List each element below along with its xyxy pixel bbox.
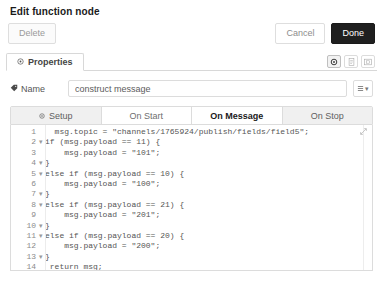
code-line-text: msg.payload = "200"; bbox=[45, 241, 372, 251]
gutter-divider bbox=[45, 125, 46, 270]
line-number: 14 bbox=[11, 262, 37, 271]
tab-properties[interactable]: Properties bbox=[6, 53, 84, 71]
line-number: 1 bbox=[11, 127, 37, 137]
code-line: 9 msg.payload = "201"; bbox=[11, 210, 372, 220]
code-line-text: } bbox=[45, 158, 372, 168]
code-line: 14 return msg; bbox=[11, 262, 372, 271]
code-line-text: if (msg.payload == 11) { bbox=[45, 137, 372, 147]
code-line-text: msg.payload = "100"; bbox=[45, 179, 372, 189]
delete-button[interactable]: Delete bbox=[8, 23, 56, 44]
code-line: 13▾} bbox=[11, 252, 372, 262]
properties-tool-group bbox=[327, 55, 375, 70]
tab-on-start-label: On Start bbox=[129, 111, 163, 121]
name-label: Name bbox=[10, 84, 62, 94]
code-line-text: } bbox=[45, 221, 372, 231]
code-line-text: else if (msg.payload == 20) { bbox=[45, 231, 372, 241]
line-number: 5 bbox=[11, 169, 37, 179]
tab-properties-label: Properties bbox=[28, 57, 73, 67]
fold-marker[interactable]: ▾ bbox=[37, 252, 45, 262]
tab-on-message[interactable]: On Message bbox=[192, 107, 283, 124]
code-line-text: msg.payload = "101"; bbox=[45, 148, 372, 158]
fold-marker[interactable]: ▾ bbox=[37, 231, 45, 241]
line-number: 12 bbox=[11, 241, 37, 251]
description-icon-button[interactable] bbox=[344, 55, 358, 68]
fold-marker[interactable]: ▾ bbox=[37, 158, 45, 168]
dialog-header: Edit function node bbox=[0, 0, 383, 19]
fold-marker[interactable]: ▾ bbox=[37, 189, 45, 199]
code-content[interactable]: 1 msg.topic = "channels/1765924/publish/… bbox=[11, 125, 372, 271]
cancel-button[interactable]: Cancel bbox=[275, 23, 325, 44]
code-line-text: else if (msg.payload == 21) { bbox=[45, 200, 372, 210]
code-line: 4▾} bbox=[11, 158, 372, 168]
fold-marker[interactable]: ▾ bbox=[37, 200, 45, 210]
code-line: 2▾if (msg.payload == 11) { bbox=[11, 137, 372, 147]
code-line: 5▾else if (msg.payload == 10) { bbox=[11, 169, 372, 179]
tab-on-stop-label: On Stop bbox=[311, 111, 344, 121]
code-line-text: msg.payload = "201"; bbox=[45, 210, 372, 220]
code-line: 1 msg.topic = "channels/1765924/publish/… bbox=[11, 127, 372, 137]
tab-on-message-label: On Message bbox=[210, 111, 263, 121]
dialog-action-group: Cancel Done bbox=[275, 23, 375, 44]
editor-scrollbar[interactable] bbox=[363, 125, 372, 270]
gear-icon-button[interactable] bbox=[327, 55, 341, 68]
tab-on-start[interactable]: On Start bbox=[102, 107, 193, 124]
code-line-text: } bbox=[45, 252, 372, 262]
name-history-button[interactable]: ▾ bbox=[353, 80, 373, 97]
tab-setup-label: Setup bbox=[49, 111, 73, 121]
appearance-icon-button[interactable] bbox=[361, 55, 375, 68]
code-tabbar: Setup On Start On Message On Stop bbox=[10, 106, 373, 125]
code-line: 11▾else if (msg.payload == 20) { bbox=[11, 231, 372, 241]
properties-tabbar: Properties bbox=[6, 51, 377, 71]
code-line-text: return msg; bbox=[45, 262, 372, 271]
line-number: 4 bbox=[11, 158, 37, 168]
line-number: 2 bbox=[11, 137, 37, 147]
page-title: Edit function node bbox=[10, 6, 373, 17]
chevron-down-icon: ▾ bbox=[365, 85, 369, 93]
fold-marker[interactable]: ▾ bbox=[37, 221, 45, 231]
list-icon bbox=[357, 85, 364, 93]
code-line: 10▾} bbox=[11, 221, 372, 231]
fold-marker[interactable]: ▾ bbox=[37, 169, 45, 179]
code-line: 8▾else if (msg.payload == 21) { bbox=[11, 200, 372, 210]
code-editor[interactable]: 1 msg.topic = "channels/1765924/publish/… bbox=[10, 125, 373, 271]
name-input[interactable] bbox=[68, 80, 347, 97]
done-button[interactable]: Done bbox=[331, 23, 375, 44]
line-number: 3 bbox=[11, 148, 37, 158]
code-line: 7▾} bbox=[11, 189, 372, 199]
fold-marker[interactable]: ▾ bbox=[37, 137, 45, 147]
code-line-text: } bbox=[45, 189, 372, 199]
line-number: 8 bbox=[11, 200, 37, 210]
line-number: 13 bbox=[11, 252, 37, 262]
code-line-text: msg.topic = "channels/1765924/publish/fi… bbox=[45, 127, 372, 137]
line-number: 7 bbox=[11, 189, 37, 199]
gear-icon bbox=[39, 111, 45, 121]
line-number: 6 bbox=[11, 179, 37, 189]
code-line: 6 msg.payload = "100"; bbox=[11, 179, 372, 189]
tag-icon bbox=[10, 84, 18, 94]
gear-icon bbox=[17, 57, 24, 67]
dialog-button-bar: Delete Cancel Done bbox=[0, 19, 383, 47]
name-label-text: Name bbox=[21, 84, 45, 94]
line-number: 10 bbox=[11, 221, 37, 231]
tab-setup[interactable]: Setup bbox=[11, 107, 102, 124]
name-row: Name ▾ bbox=[10, 80, 373, 97]
line-number: 9 bbox=[11, 210, 37, 220]
tab-on-stop[interactable]: On Stop bbox=[283, 107, 373, 124]
code-line-text: else if (msg.payload == 10) { bbox=[45, 169, 372, 179]
expand-icon[interactable] bbox=[360, 128, 367, 135]
line-number: 11 bbox=[11, 231, 37, 241]
code-line: 12 msg.payload = "200"; bbox=[11, 241, 372, 251]
edit-function-node-dialog: Edit function node Delete Cancel Done Pr… bbox=[0, 0, 383, 295]
code-line: 3 msg.payload = "101"; bbox=[11, 148, 372, 158]
